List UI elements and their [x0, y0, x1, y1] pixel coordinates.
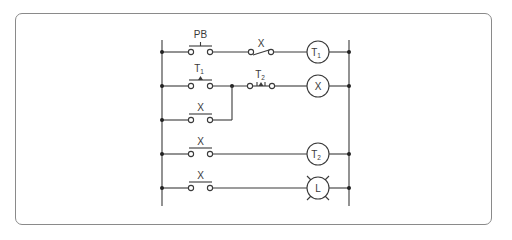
lamp-label-l: L: [315, 183, 321, 194]
contact-label-pb: PB: [194, 29, 208, 40]
rung-3-seal-in: X: [160, 86, 232, 123]
timed-arrow-icon: [198, 76, 203, 80]
ladder-diagram: PB X T1 T1 T2 X: [0, 0, 512, 240]
rung-2: T1 T2 X: [160, 63, 351, 97]
rung-1: PB X T1: [160, 29, 351, 63]
nc-contact-bar: [253, 50, 269, 55]
contact-label-x: X: [197, 102, 204, 113]
contact-label-x: X: [197, 136, 204, 147]
contact-label-t2: T2: [255, 69, 265, 81]
rung-5: X L: [160, 170, 351, 200]
contact-label-x: X: [258, 38, 265, 49]
coil-label-x: X: [315, 81, 322, 92]
timed-arrow-icon: [259, 82, 264, 86]
contact-label-x: X: [197, 170, 204, 181]
contact-label-t1: T1: [194, 63, 204, 75]
rung-4: X T2: [160, 136, 351, 165]
